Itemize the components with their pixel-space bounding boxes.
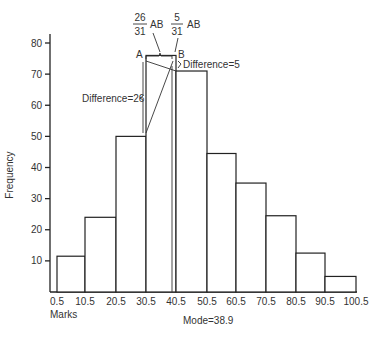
x-tick-label: 90.5 bbox=[315, 296, 335, 307]
x-tick-label: 20.5 bbox=[106, 296, 126, 307]
y-tick-label: 40 bbox=[31, 162, 43, 173]
x-tick-label: 40.5 bbox=[166, 296, 186, 307]
svg-text:31: 31 bbox=[171, 26, 183, 37]
y-tick-label: 60 bbox=[31, 100, 43, 111]
x-ticks: 0.510.520.530.540.550.560.570.580.590.51… bbox=[50, 296, 369, 307]
histogram-bar bbox=[266, 216, 296, 292]
x-tick-label: 70.5 bbox=[256, 296, 276, 307]
y-axis-label: Frequency bbox=[4, 151, 15, 198]
point-a-label: A bbox=[136, 49, 143, 60]
histogram-bar bbox=[116, 136, 146, 292]
svg-text:26: 26 bbox=[134, 12, 146, 23]
svg-text:AB: AB bbox=[150, 19, 164, 30]
svg-text:31: 31 bbox=[134, 26, 146, 37]
x-tick-label: 60.5 bbox=[226, 296, 246, 307]
histogram-bar bbox=[85, 217, 116, 292]
fraction-right: 5 31 AB bbox=[171, 12, 201, 52]
x-tick-label: 30.5 bbox=[136, 296, 156, 307]
y-tick-label: 30 bbox=[31, 193, 43, 204]
x-axis-label: Marks bbox=[50, 309, 77, 320]
y-tick-label: 50 bbox=[31, 131, 43, 142]
histogram-chart: 1020304050607080 0.510.520.530.540.550.5… bbox=[0, 0, 386, 341]
histogram-bar bbox=[207, 153, 236, 292]
y-tick-label: 10 bbox=[31, 255, 43, 266]
bars bbox=[57, 55, 356, 292]
difference-right-label: Difference=5 bbox=[183, 59, 240, 70]
histogram-bar bbox=[296, 253, 325, 292]
y-ticks: 1020304050607080 bbox=[31, 38, 50, 267]
histogram-bar bbox=[57, 256, 85, 292]
x-tick-label: 50.5 bbox=[197, 296, 217, 307]
y-tick-label: 80 bbox=[31, 38, 43, 49]
fraction-left: 26 31 AB bbox=[133, 12, 164, 52]
histogram-bar bbox=[236, 183, 266, 292]
histogram-bar bbox=[146, 55, 176, 292]
histogram-bar bbox=[176, 71, 207, 292]
mode-label: Mode=38.9 bbox=[183, 315, 234, 326]
svg-text:5: 5 bbox=[174, 12, 180, 23]
y-tick-label: 20 bbox=[31, 224, 43, 235]
x-tick-label: 10.5 bbox=[75, 296, 95, 307]
difference-left-label: Difference=26 bbox=[82, 93, 145, 104]
x-tick-label: 100.5 bbox=[343, 296, 368, 307]
svg-text:AB: AB bbox=[187, 19, 201, 30]
x-tick-label: 80.5 bbox=[286, 296, 306, 307]
histogram-bar bbox=[325, 276, 356, 292]
y-tick-label: 70 bbox=[31, 69, 43, 80]
x-tick-label: 0.5 bbox=[50, 296, 64, 307]
